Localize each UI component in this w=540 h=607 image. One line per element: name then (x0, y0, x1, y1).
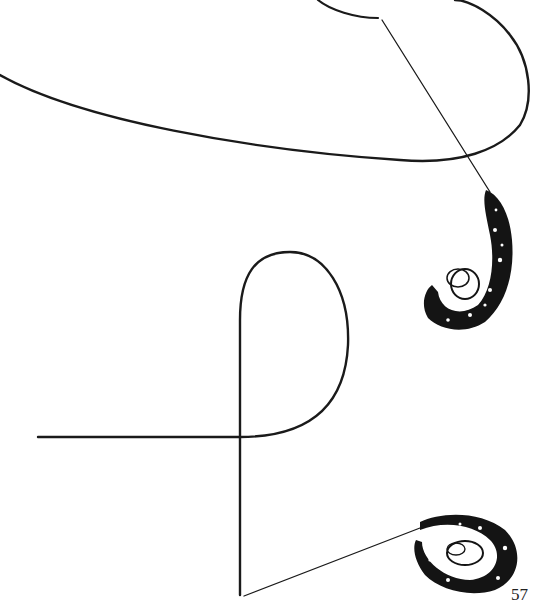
illustration-canvas (0, 0, 540, 607)
page-number: 57 (511, 585, 528, 605)
lower-knot-tangle (414, 515, 517, 594)
upper-rope-arc (318, 0, 378, 18)
lower-thread-line (244, 528, 420, 596)
lower-illustration (38, 252, 420, 596)
lower-rope-loop (240, 252, 348, 595)
upper-illustration (0, 0, 529, 192)
upper-rope-loop (0, 0, 529, 161)
upper-thread-line (382, 20, 490, 192)
upper-knot-tangle (424, 190, 513, 330)
